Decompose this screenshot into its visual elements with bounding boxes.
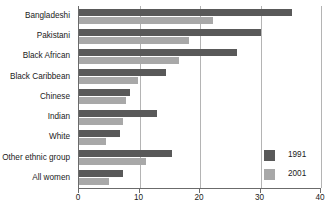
- horizontal-bar-chart: BangladeshiPakistaniBlack AfricanBlack C…: [0, 0, 335, 218]
- bar-2001: [79, 178, 109, 185]
- legend-swatch-icon: [264, 150, 275, 161]
- gridline: [321, 6, 322, 188]
- value-axis: 010203040: [78, 189, 321, 211]
- value-tick-label: 0: [76, 194, 81, 202]
- bar-group: [79, 107, 321, 127]
- bar-group: [79, 6, 321, 26]
- value-tick-label: 20: [194, 194, 203, 202]
- category-label: Bangladeshi: [0, 6, 74, 26]
- chart-legend: 19912001: [264, 146, 320, 184]
- bar-1991: [79, 130, 120, 137]
- bar-group: [79, 67, 321, 87]
- bar-1991: [79, 29, 261, 36]
- category-label: Black African: [0, 46, 74, 66]
- bar-1991: [79, 89, 130, 96]
- bar-group: [79, 26, 321, 46]
- category-label: Chinese: [0, 87, 74, 107]
- legend-swatch-icon: [264, 169, 275, 180]
- category-label: All women: [0, 168, 74, 188]
- bar-group: [79, 127, 321, 147]
- bar-1991: [79, 69, 166, 76]
- category-label: Black Caribbean: [0, 67, 74, 87]
- bar-2001: [79, 77, 138, 84]
- value-tick-label: 30: [255, 194, 264, 202]
- category-axis: BangladeshiPakistaniBlack AfricanBlack C…: [0, 6, 74, 188]
- bar-2001: [79, 57, 179, 64]
- value-tick-label: 10: [134, 194, 143, 202]
- category-label: Pakistani: [0, 26, 74, 46]
- bar-group: [79, 46, 321, 66]
- category-label: White: [0, 127, 74, 147]
- bar-1991: [79, 9, 292, 16]
- bar-1991: [79, 110, 157, 117]
- bar-2001: [79, 118, 123, 125]
- bar-2001: [79, 138, 106, 145]
- bar-1991: [79, 150, 172, 157]
- legend-item-2001: 2001: [264, 165, 320, 184]
- bar-1991: [79, 49, 237, 56]
- bar-2001: [79, 37, 189, 44]
- value-tick-label: 40: [315, 194, 324, 202]
- bar-2001: [79, 17, 213, 24]
- category-label: Other ethnic group: [0, 148, 74, 168]
- legend-label: 1991: [288, 151, 306, 159]
- bar-2001: [79, 158, 146, 165]
- category-label: Indian: [0, 107, 74, 127]
- bar-2001: [79, 97, 126, 104]
- legend-label: 2001: [288, 170, 306, 178]
- bar-1991: [79, 170, 123, 177]
- legend-item-1991: 1991: [264, 146, 320, 165]
- bar-group: [79, 87, 321, 107]
